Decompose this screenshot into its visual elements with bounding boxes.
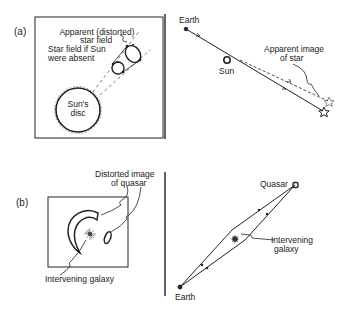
quasar-arc-image xyxy=(68,211,98,253)
quasar-icon xyxy=(293,183,298,188)
sun-icon xyxy=(224,57,230,63)
quasar-secondary-image xyxy=(104,232,111,244)
panel-b-label: (b) xyxy=(16,198,28,208)
absent-field-label-2: were absent xyxy=(48,54,94,64)
earth-label-b: Earth xyxy=(175,293,195,303)
sun-label: Sun xyxy=(219,67,234,77)
intervening-galaxy-icon xyxy=(231,235,239,243)
earth-dot-b xyxy=(178,285,182,289)
earth-label-a: Earth xyxy=(179,16,199,26)
apparent-star-icon xyxy=(324,97,334,107)
intervening-galaxy-blob xyxy=(84,228,96,240)
galaxy-label-right-2: galaxy xyxy=(274,245,299,255)
apparent-image-label-2: of star xyxy=(280,54,304,64)
quasar-label: Quasar xyxy=(260,180,288,190)
true-star-icon xyxy=(319,107,329,117)
galaxy-label-left: Intervening galaxy xyxy=(45,275,114,285)
panel-a-label: (a) xyxy=(14,27,26,37)
distorted-image-label-2: of quasar xyxy=(111,179,146,189)
apparent-light-path xyxy=(240,60,328,101)
sun-disc-label-2: disc xyxy=(60,109,96,119)
